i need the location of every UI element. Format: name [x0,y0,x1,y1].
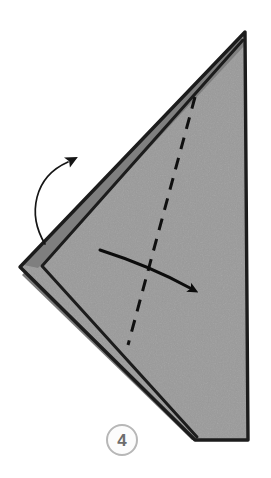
step-badge: 4 [107,425,137,455]
origami-figure-svg: 4 [0,0,271,478]
origami-diagram: 4 [0,0,271,478]
paper-group [20,32,248,440]
step-badge-number: 4 [117,431,127,450]
